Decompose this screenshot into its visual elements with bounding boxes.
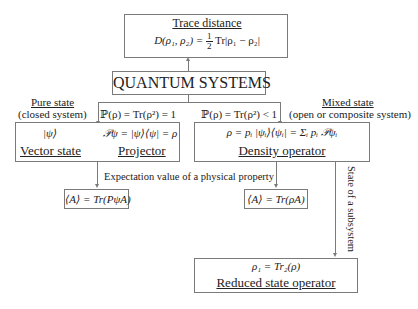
- mixed-condition: ℙ(ρ) = Tr(ρ²) < 1: [201, 108, 277, 121]
- root-label: QUANTUM SYSTEMS: [113, 74, 265, 92]
- reduced-state-label: Reduced state operator: [195, 275, 357, 291]
- reduced-formula: ρ₁ = Tr₂(ρ): [195, 260, 357, 272]
- subsystem-label: State of a subsystem: [346, 166, 357, 252]
- arrow-down-icon: [95, 184, 99, 188]
- pure-state-subtitle: (closed system): [18, 108, 87, 120]
- mixed-state-subtitle: (open or composite system): [289, 108, 411, 120]
- mixed-state-title: Mixed state: [322, 96, 374, 108]
- density-formula: ρ = pᵢ |ψᵢ⟩⟨ψᵢ| = Σᵢ pᵢ 𝒫ψᵢ: [195, 126, 369, 139]
- mixed-expectation-formula: ⟨A⟩ = Tr(ρA): [245, 193, 307, 206]
- vector-state-label: Vector state: [20, 143, 81, 159]
- connector-root-trace: [188, 60, 189, 71]
- ket-psi: |ψ⟩: [43, 127, 57, 140]
- arrow-down-icon: [274, 184, 278, 188]
- trace-distance-box: Trace distance D(ρ₁, ρ₂) = 12 Tr|ρ₁ − ρ₂…: [124, 14, 288, 58]
- pure-expectation-box: ⟨A⟩ = Tr(PψA): [64, 189, 129, 209]
- pure-expectation-formula: ⟨A⟩ = Tr(PψA): [65, 193, 128, 206]
- connector-mixed-expectation: [276, 162, 277, 185]
- connector-subsystem: [335, 162, 336, 254]
- mixed-expectation-box: ⟨A⟩ = Tr(ρA): [244, 189, 308, 209]
- one-half-fraction: 12: [206, 32, 213, 51]
- branch-horizontal: [98, 102, 280, 103]
- branch-right-drop: [280, 102, 281, 122]
- pure-state-title: Pure state: [31, 96, 74, 108]
- trace-distance-formula: D(ρ₁, ρ₂) = 12 Tr|ρ₁ − ρ₂|: [125, 32, 289, 51]
- arrow-up-icon: [186, 57, 190, 61]
- connector-pure-expectation: [97, 162, 98, 185]
- pure-state-box: |ψ⟩ 𝒫ψ = |ψ⟩⟨ψ| = ρ Vector state Project…: [15, 122, 180, 162]
- arrow-down-icon: [333, 253, 337, 257]
- mixed-state-box: ρ = pᵢ |ψᵢ⟩⟨ψᵢ| = Σᵢ pᵢ 𝒫ψᵢ Density oper…: [194, 122, 370, 162]
- expectation-value-label: Expectation value of a physical property: [104, 171, 274, 182]
- quantum-systems-box: QUANTUM SYSTEMS: [112, 71, 266, 95]
- density-operator-label: Density operator: [195, 143, 369, 159]
- projector-label: Projector: [118, 143, 166, 159]
- branch-left-drop: [98, 102, 99, 122]
- reduced-state-box: ρ₁ = Tr₂(ρ) Reduced state operator: [194, 258, 358, 293]
- connector-root-branch: [188, 95, 189, 102]
- trace-distance-title: Trace distance: [125, 16, 289, 31]
- projector-formula: 𝒫ψ = |ψ⟩⟨ψ| = ρ: [103, 127, 177, 140]
- pure-condition: ℙ(ρ) = Tr(ρ²) = 1: [100, 108, 176, 121]
